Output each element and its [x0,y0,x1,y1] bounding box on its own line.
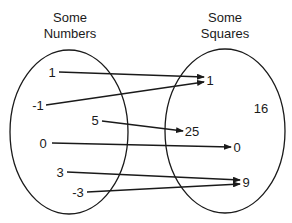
domain-element-neg3: -3 [72,185,84,200]
arrow-5-to-25 [102,121,183,131]
function-mapping-diagram: Some Numbers Some Squares 1 -1 5 0 3 -3 … [0,0,292,223]
codomain-element-1: 1 [206,73,213,88]
domain-title-line2: Numbers [44,26,97,41]
domain-title-line1: Some [53,10,87,25]
domain-element-3: 3 [56,165,63,180]
codomain-title-line2: Squares [201,26,250,41]
codomain-element-9: 9 [242,175,249,190]
arrow-0-to-0 [52,143,231,147]
arrow-3-to-9 [67,172,240,180]
domain-set-ellipse [10,50,128,214]
domain-element-1: 1 [48,65,55,80]
arrow-neg3-to-9 [87,184,240,192]
codomain-element-16: 16 [254,101,268,116]
domain-element-neg1: -1 [32,98,44,113]
domain-element-0: 0 [39,136,46,151]
domain-element-5: 5 [91,113,98,128]
arrow-neg1-to-1 [46,82,204,105]
codomain-element-0: 0 [233,140,240,155]
codomain-element-25: 25 [185,124,199,139]
codomain-title-line1: Some [208,10,242,25]
